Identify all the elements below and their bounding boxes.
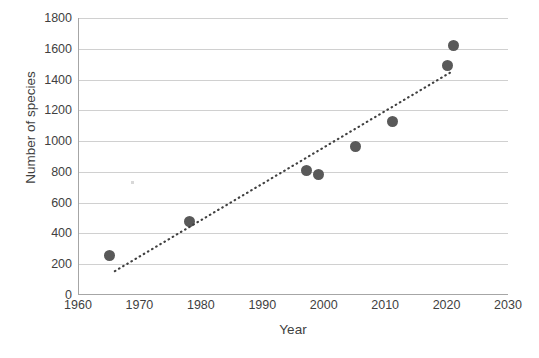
- y-axis-tick-label: 1200: [10, 104, 72, 117]
- y-axis-tick-label: 1400: [10, 74, 72, 87]
- x-axis-tick-label: 1990: [232, 299, 292, 312]
- y-axis-tick-labels: 020040060080010001200140016001800: [8, 18, 72, 295]
- y-axis-tick-label: 400: [10, 227, 72, 240]
- x-axis-tick-label: 2020: [417, 299, 477, 312]
- y-axis-tick-label: 1800: [10, 12, 72, 25]
- trendline-overlay: [78, 18, 508, 295]
- x-axis-tick-label: 2030: [478, 299, 538, 312]
- scatter-chart: Number of species 0200400600800100012001…: [0, 0, 539, 358]
- x-axis-tick-label: 2010: [355, 299, 415, 312]
- trendline: [115, 71, 453, 271]
- x-axis-tick-label: 2000: [294, 299, 354, 312]
- x-axis-tick-label: 1980: [171, 299, 231, 312]
- footer-caption: [0, 350, 539, 358]
- x-axis-tick-label: 1970: [109, 299, 169, 312]
- y-axis-tick-label: 1600: [10, 43, 72, 56]
- x-axis-tick-label: 1960: [48, 299, 108, 312]
- y-axis-tick-label: 600: [10, 197, 72, 210]
- y-axis-tick-label: 200: [10, 258, 72, 271]
- y-axis-tick-label: 1000: [10, 135, 72, 148]
- y-axis-tick-label: 800: [10, 166, 72, 179]
- x-axis-tick-labels: 19601970198019902000201020202030: [78, 299, 508, 319]
- x-axis-title: Year: [78, 322, 508, 337]
- scan-artifact-speck: [131, 181, 134, 184]
